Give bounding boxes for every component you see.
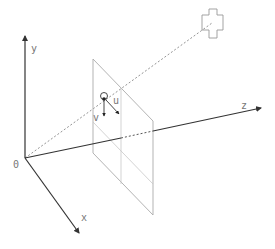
x-axis-label: x xyxy=(81,212,87,223)
x-axis xyxy=(25,158,79,233)
y-axis-label: y xyxy=(31,43,37,54)
z-axis-hidden xyxy=(121,131,153,138)
projection-diagram: 0 y z x u v xyxy=(0,0,275,249)
z-axis-label: z xyxy=(241,100,247,111)
origin-label: 0 xyxy=(13,159,19,170)
projection-ray xyxy=(25,23,212,158)
camera-icon xyxy=(202,9,223,38)
v-label: v xyxy=(93,112,99,123)
z-axis xyxy=(153,108,261,131)
image-plane xyxy=(93,59,153,215)
u-label: u xyxy=(113,95,119,106)
